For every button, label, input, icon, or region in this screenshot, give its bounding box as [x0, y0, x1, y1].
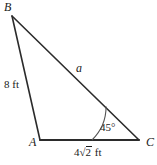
side-ac-unit-text: ft	[95, 146, 102, 158]
side-label-bc: a	[76, 62, 82, 74]
side-ac-sqrt: √2	[80, 146, 93, 158]
triangle-diagram: B A C 8 ft a 4√2 ft 45°	[0, 0, 157, 165]
side-label-ab: 8 ft	[4, 79, 19, 90]
vertex-label-a: A	[29, 136, 36, 148]
triangle-drawing	[0, 0, 157, 165]
vertex-label-c: C	[146, 136, 154, 148]
side-label-ac: 4√2 ft	[74, 146, 102, 158]
angle-label-c: 45°	[100, 122, 115, 133]
side-ac-radicand: 2	[86, 146, 93, 158]
side-bc-line	[12, 16, 139, 140]
vertex-label-b: B	[4, 1, 11, 13]
